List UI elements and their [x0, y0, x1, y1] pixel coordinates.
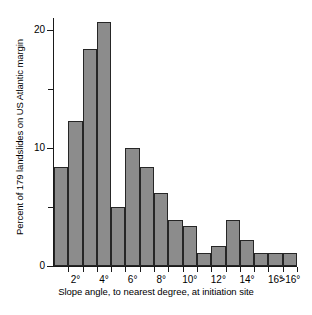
- x-tick-label: 12°: [211, 274, 226, 285]
- x-axis-label: Slope angle, to nearest degree, at initi…: [0, 286, 312, 298]
- x-tick: [125, 267, 126, 272]
- x-tick: [183, 267, 184, 272]
- bar: [168, 220, 182, 266]
- y-tick-minor: [48, 89, 53, 90]
- x-tick: [83, 267, 84, 272]
- x-tick: [240, 267, 241, 272]
- x-tick-label: 10°: [182, 274, 197, 285]
- x-tick-label: 8°: [156, 274, 166, 285]
- bar: [54, 167, 68, 266]
- bar: [97, 22, 111, 266]
- y-tick-major: [47, 30, 53, 31]
- bar: [240, 240, 254, 266]
- bar: [197, 253, 211, 266]
- x-tick: [211, 267, 212, 272]
- x-tick: [268, 267, 269, 272]
- bar: [268, 253, 282, 266]
- y-tick-label: 20: [34, 25, 45, 35]
- bar: [83, 49, 97, 266]
- y-tick-major: [47, 148, 53, 149]
- x-tick-label: 2°: [71, 274, 81, 285]
- x-tick: [97, 267, 98, 272]
- bar: [125, 148, 139, 266]
- y-tick-minor: [48, 207, 53, 208]
- x-tick: [154, 267, 155, 272]
- x-tick: [297, 267, 298, 272]
- x-tick-label: 14°: [239, 274, 254, 285]
- y-tick-label: 0: [39, 261, 45, 271]
- bar: [254, 253, 268, 266]
- bar: [226, 220, 240, 266]
- bar: [68, 121, 82, 266]
- bar: [154, 193, 168, 266]
- x-axis-line: [53, 266, 297, 267]
- x-tick: [140, 267, 141, 272]
- bar: [211, 246, 225, 266]
- y-tick-label: 10: [34, 143, 45, 153]
- x-tick-label: 4°: [99, 274, 109, 285]
- x-tick: [168, 267, 169, 272]
- x-tick: [226, 267, 227, 272]
- bar: [111, 207, 125, 266]
- y-axis-label: Percent of 179 landslides on US Atlantic…: [12, 12, 28, 262]
- x-tick: [254, 267, 255, 272]
- plot-area: 01020 2°4°6°8°10°12°14°16°>16°: [53, 18, 297, 266]
- bar: [183, 226, 197, 266]
- x-tick-label: 6°: [128, 274, 138, 285]
- x-tick-label: >16°: [279, 274, 300, 285]
- bar-series: [54, 18, 297, 266]
- chart-figure: Percent of 179 landslides on US Atlantic…: [0, 0, 312, 315]
- y-tick-major: [47, 266, 53, 267]
- bar: [140, 167, 154, 266]
- x-tick: [197, 267, 198, 272]
- x-tick: [68, 267, 69, 272]
- x-tick: [283, 267, 284, 272]
- x-tick: [111, 267, 112, 272]
- bar: [283, 253, 297, 266]
